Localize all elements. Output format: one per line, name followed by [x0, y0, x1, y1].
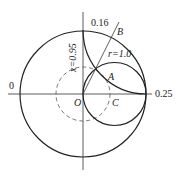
label-C: C [112, 97, 119, 108]
label-A: A [107, 71, 115, 82]
label-x: x=0.95 [67, 43, 78, 73]
label-r: r=1.0 [108, 48, 131, 59]
label-zero: 0 [9, 80, 14, 91]
label-B: B [117, 26, 123, 37]
label-O: O [74, 97, 81, 108]
label-016: 0.16 [91, 17, 109, 28]
smith-chart-diagram: 0 0.25 0.16 B A O C r=1.0 x=0.95 [0, 0, 182, 178]
label-quarter: 0.25 [155, 88, 173, 99]
